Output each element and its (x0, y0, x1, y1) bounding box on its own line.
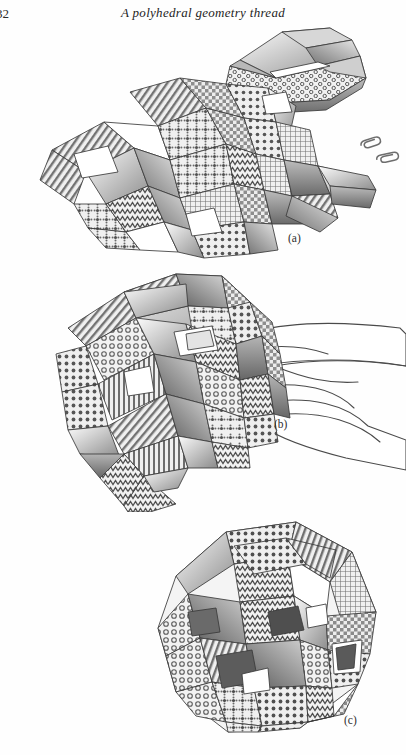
running-head: 32 A polyhedral geometry thread (0, 0, 406, 26)
figure-b-label: (b) (274, 418, 287, 430)
paper-clip-group (360, 136, 399, 164)
figure-c-label: (c) (344, 714, 357, 726)
figure-a (30, 26, 406, 262)
figure-b (28, 262, 406, 512)
figure-a-label: (a) (288, 232, 301, 244)
paper-clip (376, 151, 399, 163)
paper-clip (360, 136, 381, 150)
book-page: 32 A polyhedral geometry thread (0, 0, 406, 755)
figure-c (130, 516, 406, 755)
running-title: A polyhedral geometry thread (0, 5, 406, 21)
